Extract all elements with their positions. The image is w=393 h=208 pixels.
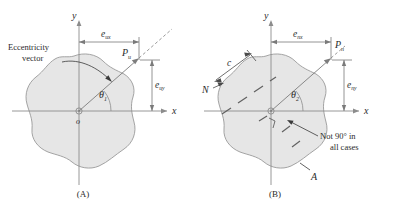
axis-label-y-a: y: [71, 10, 77, 21]
y-axis-arrow-b: [269, 20, 274, 26]
callout-label-line1-a: Eccentricity: [8, 42, 50, 52]
origin-label-a: o: [76, 117, 80, 126]
dim-nx-label-b: enx: [293, 29, 303, 40]
dim-uy-label-a: euy: [155, 80, 165, 91]
dim-uy-sub-a: uy: [159, 85, 165, 91]
y-axis-arrow-a: [77, 20, 82, 26]
dim-nx-sub-b: nx: [297, 34, 303, 40]
dim-nx-arrow-left-b: [271, 40, 277, 44]
dim-nx-arrow-right-b: [325, 40, 331, 44]
callout-label-line2-a: vector: [22, 53, 43, 63]
dim-uy-arrow-bottom-a: [150, 105, 154, 111]
x-axis-arrow-b: [353, 109, 359, 114]
dim-ux-label-a: eux: [101, 29, 111, 40]
dim-ny-arrow-bottom-b: [342, 105, 346, 111]
panel-caption-a: (A): [77, 189, 90, 199]
vector-extension-dashed-a: [139, 29, 172, 58]
dim-ux-arrow-left-a: [79, 40, 85, 44]
note-line2-b: all cases: [330, 142, 359, 152]
point-label-sub-a: u: [128, 54, 131, 60]
point-label-sub-b: n: [341, 46, 344, 52]
area-label-b: A: [310, 171, 318, 182]
dim-ny-arrow-top-b: [342, 60, 346, 66]
dim-uy-arrow-top-a: [150, 60, 154, 66]
point-label-b: Pn: [334, 39, 344, 52]
panel-caption-b: (B): [269, 189, 281, 199]
neutral-axis-label-b: N: [201, 84, 210, 95]
point-label-base-a: P: [121, 47, 128, 58]
point-label-a: Pu: [121, 47, 131, 60]
axis-label-y-b: y: [263, 10, 269, 21]
panel-a: y x o Eccentricity vector Pu θ1 eux euy …: [8, 10, 177, 199]
eccentricity-figure: y x o Eccentricity vector Pu θ1 eux euy …: [0, 0, 393, 208]
x-axis-arrow-a: [161, 109, 167, 114]
note-line1-b: Not 90° in: [320, 131, 356, 141]
point-label-base-b: P: [334, 39, 341, 50]
axis-label-x-b: x: [363, 105, 369, 116]
dim-ny-label-b: eny: [347, 80, 357, 91]
axis-label-x-a: x: [171, 105, 177, 116]
angle-label-sub-b: 2: [296, 96, 299, 102]
dim-ux-sub-a: ux: [105, 34, 111, 40]
area-leader-b: [300, 163, 310, 170]
panel-b: y x N c A Pn θ2 enx eny Not 90° in all c…: [201, 10, 369, 199]
c-label-b: c: [227, 58, 232, 68]
dim-ux-arrow-right-a: [133, 40, 139, 44]
dim-ny-sub-b: ny: [351, 85, 357, 91]
angle-label-sub-a: 1: [104, 96, 107, 102]
